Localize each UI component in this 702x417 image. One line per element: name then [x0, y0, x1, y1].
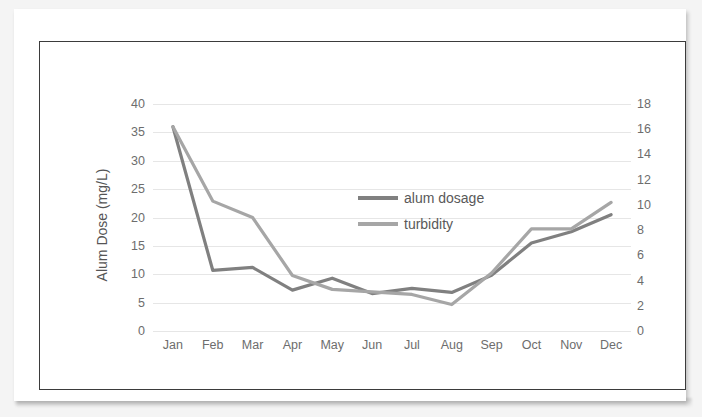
- x-tick-label: Nov: [560, 338, 582, 352]
- left-tick-label: 30: [131, 155, 145, 167]
- left-axis-ticks: 0510152025303540: [100, 104, 145, 331]
- right-tick-label: 0: [637, 325, 644, 337]
- legend-item-turbidity: turbidity: [358, 211, 484, 237]
- left-tick-label: 40: [131, 98, 145, 110]
- right-tick-label: 12: [637, 174, 651, 186]
- x-tick-label: Oct: [522, 338, 541, 352]
- right-tick-label: 10: [637, 199, 651, 211]
- x-tick-label: Mar: [242, 338, 264, 352]
- right-tick-label: 16: [637, 123, 651, 135]
- right-tick-label: 18: [637, 98, 651, 110]
- right-axis-ticks: 024681012141618: [637, 104, 677, 331]
- page-sheet: Alum Dose (mg/L) Turbidity (NTU) 0510152…: [14, 9, 686, 401]
- right-tick-label: 8: [637, 224, 644, 236]
- left-tick-label: 20: [131, 212, 145, 224]
- right-tick-label: 4: [637, 275, 644, 287]
- x-axis-ticks: JanFebMarAprMayJunJulAugSepOctNovDec: [153, 338, 631, 358]
- right-tick-label: 14: [637, 148, 651, 160]
- x-tick-label: May: [320, 338, 344, 352]
- x-tick-label: Jul: [404, 338, 420, 352]
- legend-swatch-alum-dosage: [358, 196, 398, 200]
- chart-legend: alum dosage turbidity: [358, 185, 484, 237]
- x-tick-label: Apr: [283, 338, 302, 352]
- x-tick-label: Dec: [600, 338, 622, 352]
- left-tick-label: 0: [138, 325, 145, 337]
- left-tick-label: 15: [131, 240, 145, 252]
- left-tick-label: 5: [138, 297, 145, 309]
- left-tick-label: 25: [131, 183, 145, 195]
- legend-label-turbidity: turbidity: [404, 216, 453, 232]
- x-tick-label: Aug: [441, 338, 463, 352]
- legend-label-alum-dosage: alum dosage: [404, 190, 484, 206]
- legend-swatch-turbidity: [358, 222, 398, 226]
- x-tick-label: Sep: [480, 338, 502, 352]
- chart-frame: Alum Dose (mg/L) Turbidity (NTU) 0510152…: [39, 41, 686, 390]
- right-tick-label: 6: [637, 249, 644, 261]
- legend-item-alum-dosage: alum dosage: [358, 185, 484, 211]
- x-tick-label: Feb: [202, 338, 224, 352]
- right-tick-label: 2: [637, 300, 644, 312]
- x-tick-label: Jun: [362, 338, 382, 352]
- gridline: [153, 331, 631, 332]
- left-tick-label: 35: [131, 126, 145, 138]
- left-tick-label: 10: [131, 268, 145, 280]
- x-tick-label: Jan: [163, 338, 183, 352]
- page-background: Alum Dose (mg/L) Turbidity (NTU) 0510152…: [0, 0, 702, 417]
